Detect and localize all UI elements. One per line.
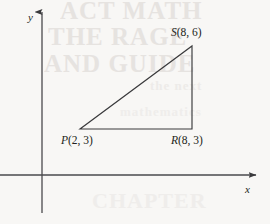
vertex-label-r: R(8, 3) [171,134,203,146]
vertex-coords-s: (8, 6) [177,26,202,38]
coordinate-plane-figure: ACT MATH THE RAGE AND GUIDE the next mat… [0,0,270,224]
vertex-label-s: S(8, 6) [171,26,202,38]
vertex-label-p: P(2, 3) [61,134,93,146]
figure-drawing [0,0,270,224]
vertex-coords-r: (8, 3) [178,134,203,146]
triangle-prs-shape [80,46,192,129]
vertex-letter-p: P [61,134,68,146]
y-axis-label: y [28,11,33,23]
vertex-letter-r: R [171,134,178,146]
x-axis-label: x [245,183,250,195]
vertex-coords-p: (2, 3) [68,134,93,146]
